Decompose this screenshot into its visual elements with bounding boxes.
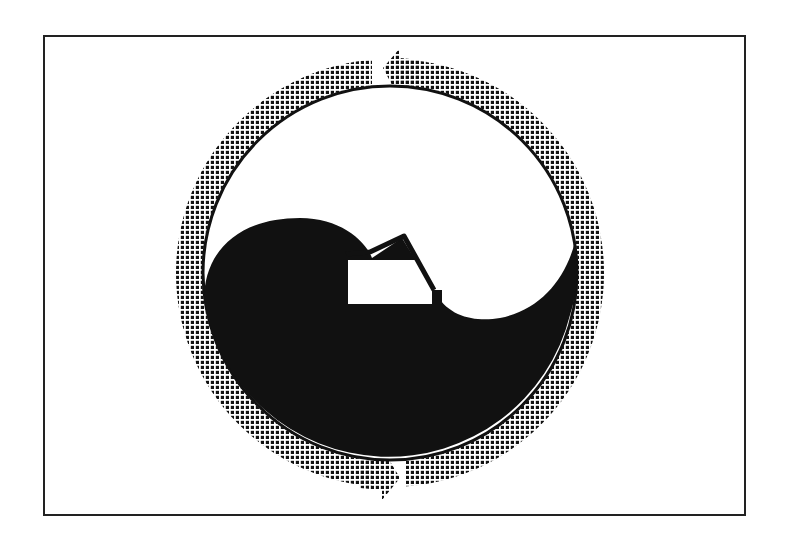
cycle-diagram [0, 0, 794, 547]
step-block [432, 290, 442, 306]
